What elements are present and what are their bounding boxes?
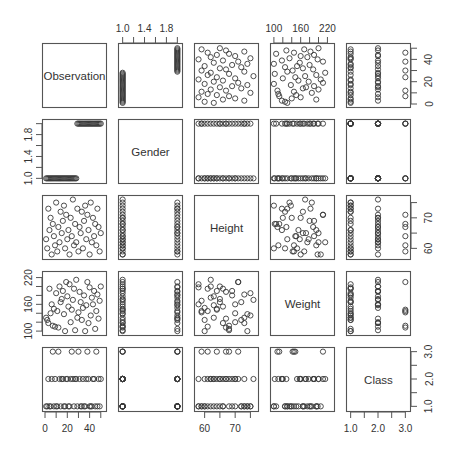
diagonal-panel-observation: Observation — [43, 44, 107, 108]
tick-label: 3.0 — [424, 344, 435, 358]
panel-frame — [119, 348, 183, 412]
right-axis-observation: 02040 — [411, 48, 435, 107]
panel-frame — [119, 44, 183, 108]
bottom-axis-class: 1.02.03.0 — [344, 412, 413, 434]
variable-label: Gender — [131, 146, 170, 158]
panel-weight-vs-class — [271, 348, 335, 412]
panel-frame — [43, 196, 107, 260]
panel-observation-vs-gender — [43, 120, 107, 184]
tick-label: 100 — [266, 23, 283, 34]
left-axis-weight: 100160220 — [24, 269, 43, 340]
tick-label: 160 — [292, 23, 309, 34]
panel-grid: ObservationGenderHeightWeightClass — [43, 44, 411, 412]
panel-gender-vs-weight — [119, 272, 183, 336]
diagonal-panel-height: Height — [195, 196, 259, 260]
tick-label: 1.4 — [138, 23, 152, 34]
panel-weight-vs-gender — [271, 120, 335, 184]
tick-label: 40 — [424, 53, 435, 65]
left-axis-gender: 1.01.41.8 — [24, 124, 43, 186]
tick-label: 1.0 — [424, 399, 435, 413]
panel-class-vs-gender — [347, 120, 411, 184]
panel-observation-vs-weight — [43, 272, 107, 336]
bottom-axis-observation: 02040 — [42, 412, 101, 434]
right-axis-class: 1.02.03.0 — [411, 344, 435, 413]
tick-label: 0 — [42, 423, 48, 434]
tick-label: 1.8 — [159, 23, 173, 34]
diagonal-panel-gender: Gender — [119, 120, 183, 184]
diagonal-panel-weight: Weight — [271, 272, 335, 336]
tick-label: 1.0 — [344, 423, 358, 434]
panel-gender-vs-height — [119, 196, 183, 260]
panel-gender-vs-observation — [119, 44, 183, 108]
panel-height-vs-class — [195, 348, 259, 412]
tick-label: 40 — [84, 423, 96, 434]
tick-label: 2.0 — [424, 372, 435, 386]
bottom-axis-height: 6070 — [199, 412, 250, 434]
tick-label: 160 — [24, 296, 35, 313]
panel-frame — [195, 120, 259, 184]
tick-label: 100 — [24, 322, 35, 339]
panel-frame — [271, 120, 335, 184]
scatterplot-matrix: ObservationGenderHeightWeightClass 02040… — [0, 0, 450, 451]
tick-label: 1.8 — [24, 127, 35, 141]
variable-label: Weight — [285, 298, 321, 310]
tick-label: 1.4 — [24, 149, 35, 163]
tick-label: 70 — [424, 212, 435, 224]
tick-label: 60 — [424, 242, 435, 254]
tick-label: 220 — [319, 23, 336, 34]
diagonal-panel-class: Class — [347, 348, 411, 412]
tick-label: 3.0 — [398, 423, 412, 434]
top-axis-weight: 100160220 — [266, 23, 337, 43]
panel-frame — [347, 120, 411, 184]
panel-height-vs-weight — [195, 272, 259, 336]
tick-label: 1.0 — [24, 171, 35, 185]
tick-label: 2.0 — [371, 423, 385, 434]
panel-class-vs-observation — [347, 44, 411, 108]
panel-class-vs-weight — [347, 272, 411, 336]
panel-height-vs-gender — [195, 120, 259, 184]
panel-class-vs-height — [347, 196, 411, 260]
tick-label: 1.0 — [116, 23, 130, 34]
panel-height-vs-observation — [195, 44, 259, 108]
tick-label: 60 — [199, 423, 211, 434]
tick-label: 220 — [24, 269, 35, 286]
tick-label: 20 — [424, 76, 435, 88]
tick-label: 20 — [62, 423, 74, 434]
variable-label: Class — [364, 374, 393, 386]
panel-observation-vs-class — [43, 348, 107, 412]
panel-weight-vs-height — [271, 196, 335, 260]
right-axis-height: 6070 — [411, 203, 435, 254]
panel-weight-vs-observation — [271, 44, 335, 108]
tick-label: 70 — [230, 423, 242, 434]
panel-gender-vs-class — [119, 348, 183, 412]
variable-label: Height — [210, 222, 244, 234]
variable-label: Observation — [43, 70, 105, 82]
panel-observation-vs-height — [43, 196, 107, 260]
panel-frame — [119, 272, 183, 336]
top-axis-gender: 1.01.41.8 — [116, 23, 178, 43]
panel-frame — [43, 120, 107, 184]
tick-label: 0 — [424, 101, 435, 107]
panel-frame — [119, 196, 183, 260]
